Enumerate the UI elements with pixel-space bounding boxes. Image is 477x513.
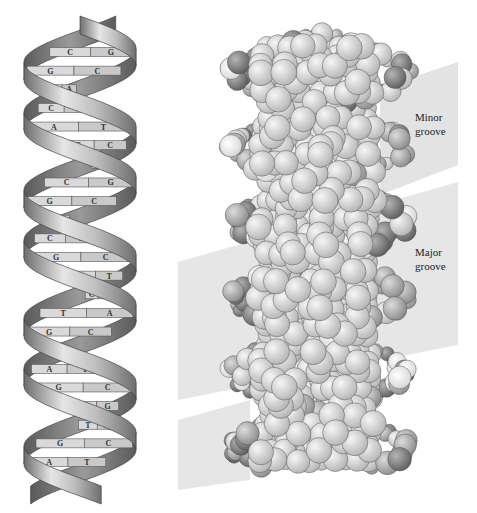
atom-sphere — [265, 115, 291, 141]
atom-sphere — [384, 66, 406, 88]
atom-sphere — [383, 297, 407, 321]
base-right-letter: A — [107, 309, 113, 318]
base-left-letter: C — [64, 178, 70, 187]
major-groove-label-line2: groove — [415, 259, 446, 273]
atom-sphere — [300, 339, 326, 365]
base-left-letter: T — [61, 309, 67, 318]
atom-sphere — [271, 374, 297, 400]
base-left-letter: A — [46, 365, 52, 374]
atom-sphere — [291, 34, 316, 59]
atom-sphere — [388, 128, 410, 150]
atom-sphere — [345, 350, 370, 375]
atom-sphere — [280, 240, 305, 265]
atom-sphere — [323, 420, 349, 446]
atom-sphere — [223, 281, 244, 302]
atom-sphere — [249, 151, 274, 176]
atom-sphere — [388, 447, 412, 471]
base-right-letter: T — [84, 458, 90, 467]
atom-sphere — [345, 69, 371, 95]
base-left-letter: G — [57, 439, 63, 448]
major-groove-label-line1: Major — [415, 245, 446, 259]
atom-sphere — [264, 339, 290, 365]
base-right-letter: C — [107, 141, 113, 150]
base-right-letter: T — [101, 123, 107, 132]
minor-groove-label-line2: groove — [415, 124, 446, 138]
atom-sphere — [388, 366, 411, 389]
atom-sphere — [274, 151, 299, 176]
base-right-letter: C — [106, 439, 112, 448]
base-right-letter: C — [95, 67, 101, 76]
base-right-letter: G — [108, 48, 114, 57]
base-left-letter: G — [46, 197, 52, 206]
major-groove-label: Major groove — [415, 245, 446, 273]
atom-sphere — [381, 274, 404, 297]
base-pair: GC — [36, 439, 133, 449]
minor-groove-label: Minor groove — [415, 110, 446, 138]
atom-sphere — [336, 35, 362, 61]
atom-sphere — [225, 203, 248, 226]
atom-sphere — [286, 421, 311, 446]
atom-sphere — [266, 86, 292, 112]
base-right-letter: G — [107, 178, 113, 187]
base-pair: CG — [45, 178, 133, 188]
atom-sphere — [285, 277, 311, 303]
atom-sphere — [307, 295, 333, 321]
base-right-letter: C — [105, 383, 111, 392]
dna-structure-figure: CGGCTACGATGCCGGCTACGGCATCGTAGCATGCCGTAGC… — [0, 0, 477, 513]
base-left-letter: C — [67, 48, 73, 57]
minor-groove-label-line1: Minor — [415, 110, 446, 124]
base-right-letter: T — [106, 272, 112, 281]
base-left-letter: G — [46, 328, 52, 337]
base-left-letter: G — [53, 253, 59, 262]
atom-sphere — [332, 375, 357, 400]
atom-sphere — [220, 135, 242, 157]
base-right-letter: C — [91, 197, 97, 206]
ribbon-helix: CGGCTACGATGCCGGCTACGGCATCGTAGCATGCCGTAGC… — [24, 16, 136, 504]
atom-sphere — [313, 232, 339, 258]
atom-sphere — [348, 231, 373, 256]
atom-sphere — [340, 259, 366, 285]
atom-sphere — [227, 51, 250, 74]
base-right-letter: C — [103, 253, 109, 262]
atom-sphere — [271, 59, 297, 85]
atom-sphere — [308, 142, 334, 168]
base-left-letter: A — [51, 123, 57, 132]
atom-sphere — [347, 115, 372, 140]
atom-sphere — [248, 60, 274, 86]
atom-sphere — [356, 141, 381, 166]
atom-sphere — [290, 107, 315, 132]
atom-sphere — [246, 214, 272, 240]
base-left-letter: C — [48, 104, 54, 113]
atom-sphere — [312, 188, 338, 214]
atom-sphere — [360, 411, 386, 437]
base-pair: GC — [27, 66, 121, 76]
atom-sphere — [292, 168, 318, 194]
atom-sphere — [345, 285, 370, 310]
base-left-letter: G — [47, 67, 53, 76]
figure-canvas: CGGCTACGATGCCGGCTACGGCATCGTAGCATGCCGTAGC… — [0, 0, 477, 513]
base-right-letter: C — [88, 328, 94, 337]
base-left-letter: C — [47, 234, 53, 243]
atom-sphere — [248, 440, 273, 465]
base-pair: TA — [40, 308, 133, 318]
atom-sphere — [311, 269, 337, 295]
base-pair: GC — [27, 197, 116, 207]
